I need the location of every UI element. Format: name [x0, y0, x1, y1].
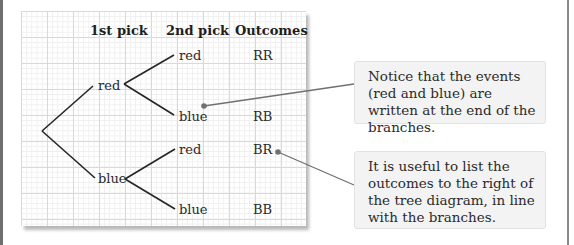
header-second-pick: 2nd pick — [166, 24, 229, 37]
node-second-red-2: red — [179, 143, 201, 156]
node-second-red-1: red — [179, 49, 201, 62]
branch-red-blue — [124, 84, 174, 115]
node-first-red: red — [98, 79, 120, 92]
node-second-blue-1: blue — [179, 110, 208, 123]
connector-1-dot — [201, 103, 207, 109]
branch-blue-blue — [125, 179, 175, 209]
callout-events-at-branch-ends: Notice that the events (red and blue) ar… — [354, 61, 546, 124]
branch-red-red — [124, 55, 174, 84]
header-first-pick: 1st pick — [90, 24, 148, 37]
callout-2-text: It is useful to list the outcomes to the… — [368, 158, 535, 225]
branch-root-blue — [42, 131, 95, 178]
node-first-blue: blue — [98, 172, 127, 185]
outcome-rr: RR — [253, 49, 273, 62]
branch-root-red — [42, 86, 93, 131]
callout-list-outcomes: It is useful to list the outcomes to the… — [354, 151, 546, 229]
connector-1 — [204, 84, 354, 106]
connector-2-dot — [275, 149, 281, 155]
branch-blue-red — [125, 149, 175, 179]
connector-2 — [278, 152, 354, 185]
outcome-br: BR — [253, 143, 272, 156]
node-second-blue-2: blue — [179, 203, 208, 216]
header-outcomes: Outcomes — [235, 24, 308, 37]
outcome-bb: BB — [253, 203, 272, 216]
outcome-rb: RB — [253, 110, 272, 123]
